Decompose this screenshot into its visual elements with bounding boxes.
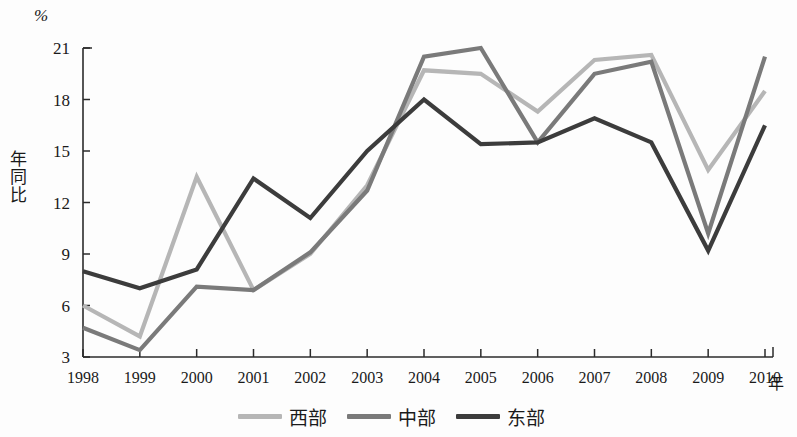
x-tick-label: 1998 <box>67 369 99 386</box>
x-tick-label: 2007 <box>579 369 611 386</box>
legend-color-swatch <box>347 414 391 419</box>
y-tick-label: 18 <box>53 91 70 110</box>
x-tick-label: 1999 <box>124 369 156 386</box>
x-tick-label: 2008 <box>635 369 667 386</box>
x-tick-label: 2005 <box>465 369 497 386</box>
chart-legend: 西部中部东部 <box>0 403 797 430</box>
chart-page: % 年同比 年 36912151821199819992000200120022… <box>0 0 797 437</box>
y-axis-ticks: 36912151821 <box>53 39 90 367</box>
legend-item[interactable]: 西部 <box>238 403 327 430</box>
x-tick-label: 2003 <box>351 369 383 386</box>
line-chart-plot: 3691215182119981999200020012002200320042… <box>0 0 797 437</box>
y-tick-label: 6 <box>62 297 71 316</box>
legend-color-swatch <box>456 414 500 419</box>
legend-item[interactable]: 东部 <box>456 403 545 430</box>
legend-item[interactable]: 中部 <box>347 403 436 430</box>
y-tick-label: 12 <box>53 194 70 213</box>
legend-label: 中部 <box>398 403 436 430</box>
y-tick-label: 15 <box>53 142 70 161</box>
y-tick-label: 21 <box>53 39 70 58</box>
x-tick-label: 2010 <box>749 369 781 386</box>
legend-label: 东部 <box>507 403 545 430</box>
legend-color-swatch <box>238 414 282 419</box>
x-tick-label: 2009 <box>692 369 724 386</box>
x-tick-label: 2000 <box>181 369 213 386</box>
x-tick-label: 2004 <box>408 369 440 386</box>
y-tick-label: 9 <box>62 245 71 264</box>
x-tick-label: 2006 <box>522 369 554 386</box>
series-line-中部 <box>83 48 765 350</box>
series-line-东部 <box>83 100 765 289</box>
x-tick-label: 2001 <box>238 369 270 386</box>
x-tick-label: 2002 <box>294 369 326 386</box>
legend-label: 西部 <box>289 403 327 430</box>
y-tick-label: 3 <box>62 348 71 367</box>
